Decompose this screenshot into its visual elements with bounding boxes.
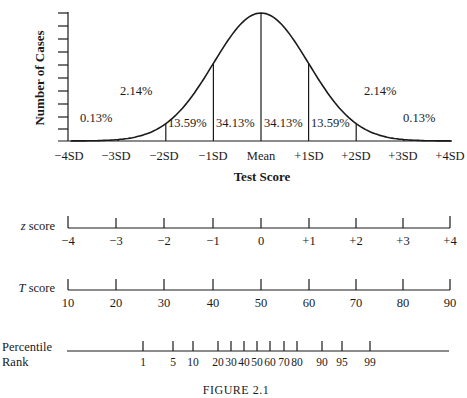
pr-value: 95 [336,356,348,368]
t-score-values: 10 20 30 40 50 60 70 80 90 [62,296,457,310]
y-axis-label: Number of Cases [32,30,47,125]
t-score-scale [68,279,450,290]
z-value: −1 [206,234,219,248]
percent-labels: 0.13% 2.14% 13.59% 34.13% 34.13% 13.59% … [80,84,435,130]
t-value: 20 [110,296,123,310]
pr-value: 60 [264,356,276,368]
figure-caption: FIGURE 2.1 [203,383,269,397]
percentile-scale [67,341,449,351]
pct-label: 2.14% [120,84,152,98]
sd-tick: +4SD [435,149,464,163]
pr-value: 90 [316,356,328,368]
t-value: 40 [207,296,220,310]
sd-tick: −1SD [198,149,227,163]
sd-tick: +3SD [388,149,417,163]
sd-tick: −2SD [149,149,178,163]
pr-value: 70 [278,356,290,368]
pct-label: 34.13% [264,116,303,130]
pct-label: 0.13% [80,111,112,125]
sd-lines [118,13,404,141]
normal-curve-figure: Number of Cases 0.13% 2.14% 13.59% 34.13… [0,0,467,398]
sd-tick: −4SD [54,149,83,163]
t-value: 70 [350,296,363,310]
t-value: 60 [303,296,316,310]
pr-value: 50 [251,356,263,368]
t-value: 30 [158,296,171,310]
t-value: 90 [444,296,457,310]
z-value: +3 [396,234,409,248]
pct-label: 2.14% [364,84,396,98]
t-value: 80 [397,296,410,310]
percentile-label-line1: Percentile [2,340,52,354]
pr-value: 99 [364,356,376,368]
pr-value: 30 [225,356,237,368]
x-axis-label: Test Score [234,169,291,184]
z-score-values: −4 −3 −2 −1 0 +1 +2 +3 +4 [61,234,457,248]
sd-tick: +2SD [341,149,370,163]
pr-value: 40 [238,356,250,368]
z-value: +4 [443,234,457,248]
y-axis [58,12,68,141]
sd-tick-labels: −4SD −3SD −2SD −1SD Mean +1SD +2SD +3SD … [54,149,464,163]
pct-label: 13.59% [311,116,350,130]
t-value: 10 [62,296,75,310]
pct-label: 13.59% [168,116,207,130]
z-value: +2 [349,234,362,248]
t-score-label: T score [19,281,56,295]
z-value: −2 [157,234,170,248]
z-value: +1 [302,234,315,248]
pct-label: 34.13% [216,116,255,130]
t-value: 50 [255,296,268,310]
percentile-values: 1 5 10 20 30 40 50 60 70 80 90 95 99 [140,356,376,368]
z-value: −3 [109,234,122,248]
pr-value: 5 [170,356,176,368]
z-value: −4 [61,234,75,248]
z-value: 0 [258,234,264,248]
sd-tick: −3SD [101,149,130,163]
pr-value: 80 [291,356,303,368]
pr-value: 1 [140,356,146,368]
pct-label: 0.13% [403,111,435,125]
sd-tick: Mean [247,149,276,163]
z-score-label: z score [20,219,56,233]
percentile-label-line2: Rank [2,355,29,369]
sd-tick: +1SD [294,149,323,163]
z-score-scale [68,216,450,228]
pr-value: 20 [212,356,224,368]
pr-value: 10 [187,356,199,368]
